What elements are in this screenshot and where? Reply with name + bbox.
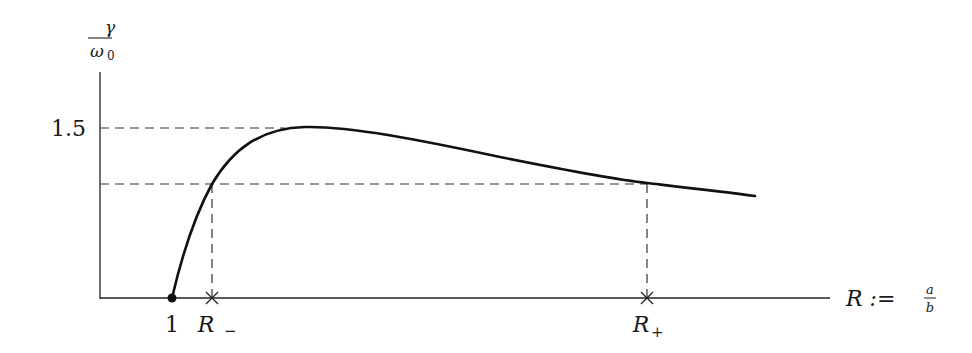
y-label-numerator: γ bbox=[105, 17, 116, 37]
x-tick-one: 1 bbox=[165, 312, 179, 337]
x-tick-r-plus-sub: + bbox=[651, 323, 664, 341]
x-label-numerator: a bbox=[926, 282, 934, 297]
plot-canvas: γ ω 0 1.5 1 R − R + R := a b bbox=[0, 0, 972, 353]
y-label-denominator: ω bbox=[90, 41, 104, 61]
y-tick-1-5: 1.5 bbox=[51, 116, 86, 141]
x-tick-r-minus-sub: − bbox=[224, 322, 237, 340]
x-tick-r-minus: R bbox=[197, 312, 215, 337]
x-tick-r-plus: R bbox=[632, 312, 650, 337]
x-label-denominator: b bbox=[926, 300, 934, 315]
start-point-dot bbox=[168, 294, 177, 303]
y-label-denominator-sub: 0 bbox=[107, 49, 115, 63]
x-label-main: R := bbox=[845, 286, 895, 311]
gamma-curve bbox=[172, 127, 755, 298]
